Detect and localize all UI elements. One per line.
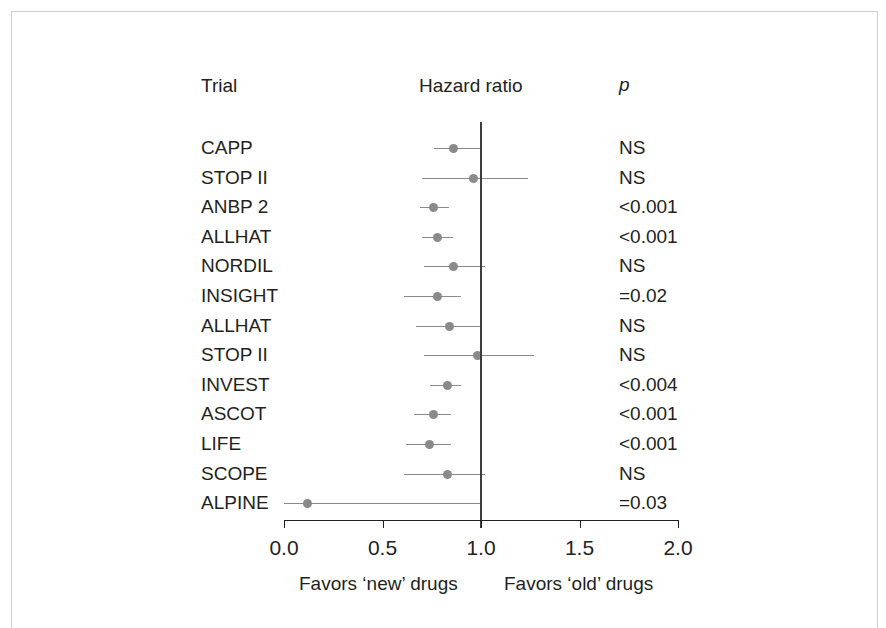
x-tick-label: 0.0: [269, 536, 298, 560]
hazard-ratio-point: [449, 262, 458, 271]
column-header-hazard-ratio: Hazard ratio: [419, 75, 523, 97]
x-tick-label: 1.5: [565, 536, 594, 560]
trial-label: ASCOT: [201, 403, 266, 425]
trial-label: NORDIL: [201, 255, 273, 277]
p-value-label: <0.001: [619, 403, 678, 425]
p-value-label: NS: [619, 315, 645, 337]
p-value-label: <0.001: [619, 226, 678, 248]
p-value-label: NS: [619, 344, 645, 366]
hazard-ratio-point: [449, 144, 458, 153]
trial-label: ANBP 2: [201, 196, 268, 218]
hazard-ratio-point: [303, 499, 312, 508]
p-value-label: NS: [619, 137, 645, 159]
forest-plot: Trial Hazard ratio p CAPPNSSTOP IINSANBP…: [12, 12, 877, 628]
trial-label: ALLHAT: [201, 226, 271, 248]
trial-label: STOP II: [201, 344, 268, 366]
x-tick-label: 1.0: [466, 536, 495, 560]
x-tick-mark: [678, 520, 679, 528]
x-tick-mark: [383, 520, 384, 528]
column-header-p-value: p: [619, 74, 630, 96]
hazard-ratio-point: [425, 440, 434, 449]
hazard-ratio-point: [433, 233, 442, 242]
x-tick-mark: [481, 520, 482, 528]
x-tick-label: 2.0: [663, 536, 692, 560]
figure-frame: Trial Hazard ratio p CAPPNSSTOP IINSANBP…: [11, 11, 878, 628]
trial-label: STOP II: [201, 167, 268, 189]
trial-label: LIFE: [201, 433, 241, 455]
trial-label: ALLHAT: [201, 315, 271, 337]
trial-label: INVEST: [201, 374, 270, 396]
reference-line: [480, 122, 482, 528]
p-value-label: <0.004: [619, 374, 678, 396]
column-header-trial: Trial: [201, 75, 237, 97]
hazard-ratio-point: [443, 381, 452, 390]
hazard-ratio-point: [469, 174, 478, 183]
trial-label: SCOPE: [201, 463, 268, 485]
p-value-label: NS: [619, 463, 645, 485]
p-value-label: <0.001: [619, 433, 678, 455]
x-tick-mark: [580, 520, 581, 528]
hazard-ratio-point: [429, 203, 438, 212]
trial-label: CAPP: [201, 137, 253, 159]
hazard-ratio-point: [443, 470, 452, 479]
p-value-label: NS: [619, 167, 645, 189]
trial-label: INSIGHT: [201, 285, 278, 307]
favors-new-label: Favors ‘new’ drugs: [299, 573, 458, 595]
p-value-label: <0.001: [619, 196, 678, 218]
p-value-label: NS: [619, 255, 645, 277]
trial-label: ALPINE: [201, 492, 269, 514]
hazard-ratio-point: [429, 410, 438, 419]
confidence-interval-line: [284, 503, 481, 504]
favors-old-label: Favors ‘old’ drugs: [504, 573, 653, 595]
x-tick-mark: [284, 520, 285, 528]
p-value-label: =0.03: [619, 492, 667, 514]
x-tick-label: 0.5: [368, 536, 397, 560]
hazard-ratio-point: [433, 292, 442, 301]
p-value-label: =0.02: [619, 285, 667, 307]
hazard-ratio-point: [445, 322, 454, 331]
